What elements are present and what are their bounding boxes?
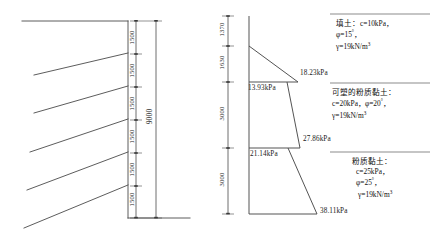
soil-layer-3-phi-sep: ，: [374, 179, 381, 188]
soil-layer-2-cohesion-and-phi: c=20kPa，φ=20: [332, 100, 381, 109]
dim-label-1500-4: 1500: [128, 130, 135, 144]
dim-label-1630: 1630: [218, 56, 225, 70]
soil-nail-line-2: [34, 86, 128, 113]
soil-layer-1-block: 填土：c=10kPa， φ=15°， γ=19kN/m3: [336, 19, 393, 52]
soil-layer-3-unit-weight: γ=19kN/m: [358, 190, 390, 199]
soil-nail-line-4: [27, 152, 128, 190]
soil-nail-line-5: [24, 185, 128, 228]
pressure-line-layer3: [288, 148, 317, 214]
soil-layer-2-gamma-exponent: 3: [364, 110, 367, 116]
dim-label-1370: 1370: [218, 23, 225, 37]
figure-canvas: 1500 1500 1500 1500 1500 1500 9000 1370 …: [0, 0, 434, 239]
soil-layer-2-unit-weight: γ=19kN/m: [332, 111, 364, 120]
pressure-label-27-86: 27.86kPa: [303, 136, 331, 144]
dim-label-3000-lower: 3000: [218, 173, 225, 187]
pressure-label-38-11: 38.11kPa: [320, 208, 348, 216]
soil-layer-1-friction-angle: φ=15: [336, 31, 352, 40]
soil-layer-3-block: 粉质黏土： c=25kPa， φ=25°， γ=19kN/m3: [352, 157, 392, 200]
dim-label-1500-6: 1500: [128, 193, 135, 207]
soil-layer-1-gamma-exponent: 3: [368, 41, 371, 47]
pressure-label-13-93: 13.93kPa: [248, 85, 276, 93]
soil-layer-3-gamma-exponent: 3: [390, 189, 393, 195]
pressure-line-layer1: [249, 46, 298, 82]
dim-label-1500-5: 1500: [128, 163, 135, 177]
soil-nail-line-1: [34, 53, 128, 75]
soil-layer-3-friction-angle: φ=25: [356, 179, 372, 188]
dim-label-3000-upper: 3000: [218, 107, 225, 121]
soil-layer-2-phi-sep: ，: [383, 100, 390, 109]
soil-layer-2-name: 可塑的粉质黏土：: [332, 88, 396, 97]
dim-label-9000-total: 9000: [145, 109, 154, 125]
soil-layer-1-unit-weight: γ=19kN/m: [336, 42, 368, 51]
dim-label-1500-2: 1500: [128, 64, 135, 78]
dim-label-1500-1: 1500: [128, 31, 135, 45]
soil-nail-line-3: [30, 119, 128, 152]
pressure-label-18-23: 18.23kPa: [300, 70, 328, 78]
dim-label-1500-3: 1500: [128, 97, 135, 111]
soil-layer-2-block: 可塑的粉质黏土： c=20kPa，φ=20°， γ=19kN/m3: [332, 88, 396, 121]
soil-layer-3-name: 粉质黏土：: [352, 157, 392, 166]
pressure-line-layer2: [287, 82, 300, 148]
soil-layer-1-cohesion: c=10kPa，: [360, 19, 393, 28]
soil-layer-1-phi-sep: ，: [354, 31, 361, 40]
soil-layer-1-name: 填土：: [336, 19, 360, 28]
soil-layer-3-cohesion: c=25kPa，: [356, 167, 389, 176]
pressure-label-21-14: 21.14kPa: [250, 151, 278, 159]
